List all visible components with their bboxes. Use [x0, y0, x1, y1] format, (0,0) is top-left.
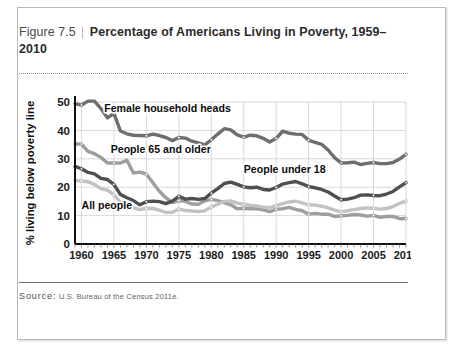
y-axis-tick-label: 40	[57, 125, 70, 137]
series-marker	[80, 167, 83, 170]
figure-caption: Figure 7.5Percentage of Americans Living…	[19, 24, 409, 58]
x-axis-tick-label: 1960	[69, 249, 93, 261]
x-axis-tick-label: 2010	[394, 249, 411, 261]
series-marker	[405, 200, 408, 203]
series-marker	[340, 211, 343, 214]
series-marker	[113, 183, 116, 186]
series-marker	[405, 217, 408, 220]
x-axis-tick-label: 1980	[199, 249, 223, 261]
series-marker	[178, 195, 181, 198]
series-marker	[178, 136, 181, 139]
source-label: Source:	[19, 291, 56, 301]
series-marker	[340, 215, 343, 218]
x-axis-tick-label: 1975	[167, 249, 191, 261]
series-marker	[242, 186, 245, 189]
series-marker	[275, 137, 278, 140]
series-marker	[80, 143, 83, 146]
series-marker	[178, 208, 181, 211]
series-marker	[275, 186, 278, 189]
series-marker	[275, 204, 278, 207]
chart-svg: 0102030405019601965197019751980198519901…	[19, 88, 411, 268]
series-marker	[307, 185, 310, 188]
x-axis-tick-label: 1995	[296, 249, 320, 261]
series-marker	[275, 208, 278, 211]
x-axis-tick-label: 1965	[102, 249, 126, 261]
series-marker	[80, 180, 83, 183]
series-marker	[210, 206, 213, 209]
source-text: U.S. Bureau of the Census 2011e.	[59, 292, 179, 301]
series-marker	[372, 194, 375, 197]
x-axis-tick-label: 2000	[329, 249, 353, 261]
title-dotted-divider	[19, 73, 408, 74]
series-marker	[372, 207, 375, 210]
series-marker	[145, 207, 148, 210]
series-label: Female household heads	[104, 102, 231, 114]
y-axis-tick-label: 50	[57, 96, 70, 108]
series-marker	[210, 192, 213, 195]
series-marker	[242, 207, 245, 210]
x-axis-tick-label: 1970	[134, 249, 158, 261]
source-divider-rule	[19, 282, 408, 283]
series-label: All people	[81, 199, 132, 211]
series-marker	[210, 198, 213, 201]
poverty-line-chart: 0102030405019601965197019751980198519901…	[19, 88, 411, 268]
series-marker	[113, 194, 116, 197]
series-marker	[242, 136, 245, 139]
caption-divider-rule	[82, 27, 83, 39]
y-axis-tick-label: 10	[57, 210, 70, 222]
x-axis-tick-label: 2005	[361, 249, 385, 261]
series-marker	[340, 198, 343, 201]
series-marker	[405, 181, 408, 184]
series-marker	[307, 204, 310, 207]
series-marker	[307, 139, 310, 142]
y-axis-title: % living below poverty line	[24, 101, 36, 245]
series-marker	[372, 214, 375, 217]
series-marker	[340, 162, 343, 165]
source-note: Source: U.S. Bureau of the Census 2011e.	[19, 291, 179, 301]
series-marker	[145, 200, 148, 203]
series-marker	[113, 162, 116, 165]
series-label: People 65 and older	[111, 143, 211, 155]
series-marker	[210, 139, 213, 142]
x-axis-tick-label: 1985	[232, 249, 256, 261]
figure-number: Figure 7.5	[19, 25, 76, 39]
series-marker	[178, 199, 181, 202]
series-marker	[405, 153, 408, 156]
series-marker	[242, 203, 245, 206]
series-marker	[145, 135, 148, 138]
x-axis-tick-label: 1990	[264, 249, 288, 261]
y-axis-tick-label: 20	[57, 181, 70, 193]
series-label: People under 18	[244, 163, 326, 175]
series-marker	[307, 213, 310, 216]
series-marker	[372, 161, 375, 164]
series-marker	[145, 173, 148, 176]
y-axis-tick-label: 30	[57, 153, 70, 165]
series-marker	[80, 104, 83, 107]
